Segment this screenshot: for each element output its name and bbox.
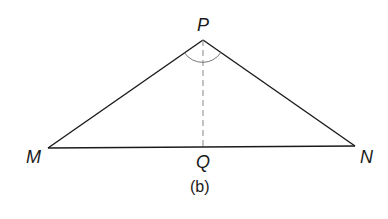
label-N: N xyxy=(360,147,374,167)
label-M: M xyxy=(26,147,41,167)
label-Q: Q xyxy=(196,152,210,172)
figure-caption: (b) xyxy=(190,178,210,195)
side-MN xyxy=(48,146,355,148)
side-MP xyxy=(48,40,203,148)
side-PN xyxy=(203,40,355,146)
triangle-diagram: P M N Q (b) xyxy=(0,0,388,219)
label-P: P xyxy=(197,15,209,35)
